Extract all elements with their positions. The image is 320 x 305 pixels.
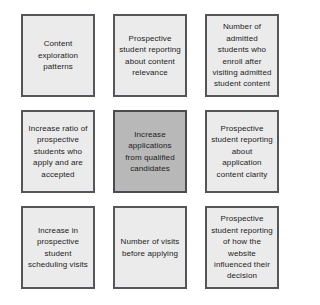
grid-cell-label: Content exploration patterns — [27, 38, 89, 72]
grid-cell-label: Increase applications from qualified can… — [119, 129, 181, 174]
grid-cell-middle-right[interactable]: Prospective student reporting about appl… — [205, 110, 279, 193]
grid-cell-label: Number of visits before applying — [119, 236, 181, 259]
grid-cell-middle-center-highlighted[interactable]: Increase applications from qualified can… — [113, 110, 187, 193]
grid-cell-label: Prospective student reporting about cont… — [119, 33, 181, 78]
grid-cell-label: Number of admitted students who enroll a… — [211, 21, 273, 89]
grid-cell-label: Increase ratio of prospective students w… — [27, 123, 89, 180]
grid-cell-middle-left[interactable]: Increase ratio of prospective students w… — [21, 110, 95, 193]
grid-cell-bottom-right[interactable]: Prospective student reporting of how the… — [205, 206, 279, 289]
grid-cell-label: Prospective student reporting of how the… — [211, 213, 273, 281]
grid-cell-top-left[interactable]: Content exploration patterns — [21, 14, 95, 97]
grid-cell-bottom-center[interactable]: Number of visits before applying — [113, 206, 187, 289]
grid-cell-bottom-left[interactable]: Increase in prospective student scheduli… — [21, 206, 95, 289]
metrics-grid: Content exploration patterns Prospective… — [21, 14, 287, 288]
grid-cell-label: Increase in prospective student scheduli… — [27, 225, 89, 270]
grid-cell-top-center[interactable]: Prospective student reporting about cont… — [113, 14, 187, 97]
grid-cell-label: Prospective student reporting about appl… — [211, 123, 273, 180]
grid-cell-top-right[interactable]: Number of admitted students who enroll a… — [205, 14, 279, 97]
